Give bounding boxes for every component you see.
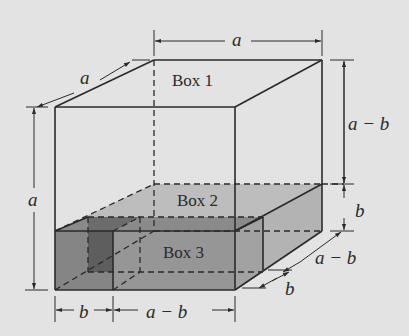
depth-near-label: b <box>285 279 295 298</box>
box1-label: Box 1 <box>172 72 213 89</box>
front-depth-label: a <box>80 68 90 87</box>
bottom-right-label: a − b <box>146 302 187 321</box>
box-decomposition-diagram: Box 1 Box 2 Box 3 a a a a − b b a − b b … <box>0 0 409 336</box>
right-upper-height-label: a − b <box>348 114 389 133</box>
box3-volume <box>55 217 263 290</box>
depth-far-label: a − b <box>315 248 356 267</box>
left-height-label: a <box>28 190 38 209</box>
box3-label: Box 3 <box>163 244 204 261</box>
box2-label: Box 2 <box>177 192 218 209</box>
diagram-canvas <box>0 0 409 336</box>
top-width-label: a <box>232 30 242 49</box>
right-lower-height-label: b <box>355 201 365 220</box>
bottom-left-label: b <box>79 302 89 321</box>
